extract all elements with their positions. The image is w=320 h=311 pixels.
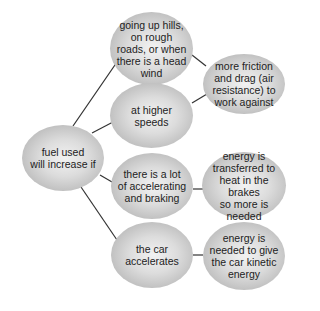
node-accelerating-braking: there is a lot of accelerating and braki… bbox=[111, 153, 193, 219]
node-label: going up hills, on rough roads, or when … bbox=[117, 19, 186, 79]
node-label: the car accelerates bbox=[125, 243, 179, 267]
node-label: more friction and drag (air resistance) … bbox=[212, 60, 275, 108]
link-speeds-friction bbox=[192, 94, 207, 103]
node-label: there is a lot of accelerating and braki… bbox=[118, 168, 186, 204]
node-higher-speeds: at higher speeds bbox=[110, 83, 193, 148]
node-label: energy is needed to give the car kinetic… bbox=[210, 232, 279, 280]
node-kinetic-energy: energy is needed to give the car kinetic… bbox=[203, 222, 285, 290]
link-fuel-braking bbox=[100, 175, 112, 182]
link-fuel-speeds bbox=[92, 122, 113, 133]
node-fuel-used: fuel used will increase if bbox=[22, 125, 104, 191]
node-heat-in-brakes: energy is transferred to heat in the bra… bbox=[202, 152, 286, 219]
node-going-up-hills: going up hills, on rough roads, or when … bbox=[110, 12, 193, 85]
node-label: at higher speeds bbox=[114, 104, 189, 128]
node-car-accelerates: the car accelerates bbox=[111, 222, 193, 288]
link-hills-friction bbox=[192, 55, 206, 66]
node-label: energy is transferred to heat in the bra… bbox=[206, 150, 282, 222]
node-friction-drag: more friction and drag (air resistance) … bbox=[203, 54, 285, 114]
node-label: fuel used will increase if bbox=[30, 146, 95, 170]
